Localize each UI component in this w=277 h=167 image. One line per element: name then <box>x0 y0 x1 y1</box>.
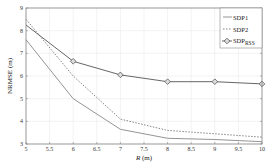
x-tick-label: 5.5 <box>46 146 54 152</box>
diamond-marker-icon <box>118 72 124 78</box>
x-tick-label: 10 <box>259 146 265 152</box>
legend: SDP1 SDP2 SDPRSS <box>220 8 262 48</box>
x-axis-label: R (m) <box>135 154 153 162</box>
y-tick-label: 7 <box>20 50 23 56</box>
x-tick-label: 8 <box>166 146 169 152</box>
y-tick-label: 6 <box>20 73 23 79</box>
legend-sdp1-label: SDP1 <box>233 14 248 21</box>
x-tick-label: 6.5 <box>93 146 101 152</box>
x-tick-label: 9 <box>213 146 216 152</box>
x-axis-ticks: 55.566.577.588.599.510 <box>25 142 266 152</box>
diamond-marker-icon <box>212 79 218 85</box>
x-tick-label: 7 <box>119 146 122 152</box>
x-tick-label: 7.5 <box>140 146 148 152</box>
x-tick-label: 6 <box>72 146 75 152</box>
diamond-marker-icon <box>165 79 171 85</box>
x-tick-label: 9.5 <box>235 146 243 152</box>
legend-sdp2-label: SDP2 <box>233 26 248 33</box>
x-tick-label: 8.5 <box>187 146 195 152</box>
y-tick-label: 5 <box>20 96 23 102</box>
x-tick-label: 5 <box>25 146 28 152</box>
y-tick-label: 8 <box>20 28 23 34</box>
y-tick-label: 3 <box>20 141 23 147</box>
y-tick-label: 4 <box>20 118 23 124</box>
y-tick-label: 9 <box>20 5 23 11</box>
y-axis-label: NRMSE (m) <box>6 57 14 94</box>
nrmse-vs-r-chart: 55.566.577.588.599.510 3456789 R (m) NRM… <box>0 0 277 167</box>
